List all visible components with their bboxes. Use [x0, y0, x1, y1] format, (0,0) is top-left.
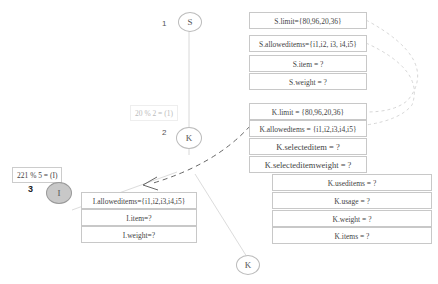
level-3-label: 3	[28, 184, 33, 194]
node-k[interactable]: K	[176, 127, 202, 149]
i-item: I.item=?	[81, 209, 197, 226]
level-1-label: 1	[162, 19, 166, 28]
i-weight: I.weight=?	[81, 226, 197, 243]
node-k-child[interactable]: K	[236, 255, 260, 275]
k-limit: K.limit = {80,96,20,36}	[249, 103, 367, 120]
s-weight: S.weight = ?	[249, 73, 367, 90]
edge-label-k-i: 221 % 5 = (I)	[12, 167, 62, 183]
node-s[interactable]: S	[178, 12, 202, 32]
k-weight: K.weight = ?	[272, 210, 432, 227]
s-limit: S.limit={80,96,20,36}	[249, 12, 367, 29]
i-alloweditems: I.alloweditems={i1,i2,i3,i4,i5}	[81, 192, 197, 209]
node-i[interactable]: I	[46, 182, 72, 204]
s-alloweditems: S.alloweditems={i1,i2, i3, i4,i5}	[249, 35, 367, 52]
k-selecteditem: K.selecteditem = ?	[249, 138, 367, 155]
k-items: K.items = ?	[272, 227, 432, 244]
edge-label-s-k: 20 % 2 = (1)	[130, 105, 178, 121]
k-useditems: K.useditems = ?	[272, 174, 432, 191]
k-usage: K.usage = ?	[272, 192, 432, 209]
k-selecteditemweight: K.selecteditemweight = ?	[249, 156, 367, 173]
level-2-label: 2	[162, 128, 166, 137]
k-allowedtems: K.allowedtems = {i1,i2,i3,i4,i5}	[249, 120, 367, 137]
s-item: S.item = ?	[249, 55, 367, 72]
